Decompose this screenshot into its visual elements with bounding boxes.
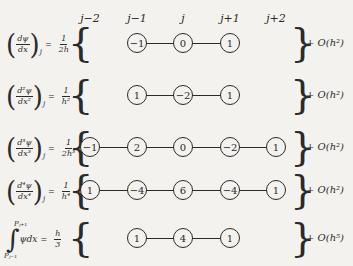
left-brace: { [68,217,93,257]
stencil-weight: 1 [220,33,240,53]
integrand: ψdx [20,234,38,244]
derivative: d³ψdx³ [16,138,33,159]
integral-upper-limit: Pⱼ₊₁ [14,220,27,228]
stencil-weight: 1 [127,228,147,248]
error-order: + O(h⁵) [306,232,344,243]
stencil-weight: 1 [220,228,240,248]
stencil-weight: 1 [80,180,100,200]
left-brace: { [68,22,93,62]
formula-lhs: (d⁴ψdx⁴)j=1h⁴ [6,171,70,211]
stencil-row: ∫Pⱼ₊₁Pⱼ₋₁ψdx=h3{}141+ O(h⁵) [0,219,353,259]
stencil-row: (d²ψdx²)j=1h²{}1−21+ O(h²) [0,76,353,116]
stencil-row: (d⁴ψdx⁴)j=1h⁴{}1−46−41+ O(h²) [0,171,353,211]
formula-lhs: (dψdx)j=12h [6,24,69,64]
stencil-weight: 4 [173,228,193,248]
left-brace: { [68,74,93,114]
error-order: + O(h²) [306,89,344,100]
error-order: + O(h²) [306,141,344,152]
error-order: + O(h²) [306,184,344,195]
stencil-weight: 2 [127,137,147,157]
stencil-weight: −1 [80,137,100,157]
derivative: d⁴ψdx⁴ [16,181,33,202]
stencil-weight: −2 [173,85,193,105]
integral-lower-limit: Pⱼ₋₁ [4,252,17,260]
formula-lhs: (d²ψdx²)j=1h² [6,76,70,116]
stencil-weight: 0 [173,137,193,157]
stencil-weight: 1 [127,85,147,105]
stencil-row: (dψdx)j=12h{}−101+ O(h²) [0,24,353,64]
error-order: + O(h²) [306,37,344,48]
formula-lhs: ∫Pⱼ₊₁Pⱼ₋₁ψdx=h3 [6,219,61,259]
stencil-weight: −2 [220,137,240,157]
stencil-row: (d³ψdx³)j=12h³{}−120−21+ O(h²) [0,128,353,168]
stencil-weight: 1 [220,85,240,105]
coefficient: h3 [54,229,61,250]
stencil-weight: −1 [127,33,147,53]
stencil-weight: −4 [127,180,147,200]
derivative: d²ψdx² [16,86,33,107]
stencil-weight: 6 [173,180,193,200]
stencil-weight: −4 [220,180,240,200]
stencil-weight: 1 [266,180,286,200]
stencil-weight: 1 [266,137,286,157]
formula-lhs: (d³ψdx³)j=12h³ [6,128,75,168]
stencil-weight: 0 [173,33,193,53]
derivative: dψdx [16,34,29,55]
